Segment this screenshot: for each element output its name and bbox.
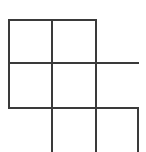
grid-drawing	[0, 0, 146, 152]
figure-canvas	[0, 0, 146, 152]
figure-background	[0, 0, 146, 152]
